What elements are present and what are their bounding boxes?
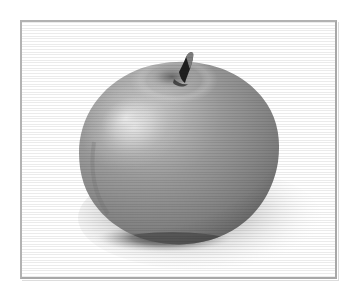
- figure-root: [0, 0, 357, 297]
- photo-canvas: [22, 22, 335, 277]
- photo-frame: [20, 20, 337, 279]
- apple-photograph: [22, 22, 335, 277]
- stem-well: [146, 65, 198, 91]
